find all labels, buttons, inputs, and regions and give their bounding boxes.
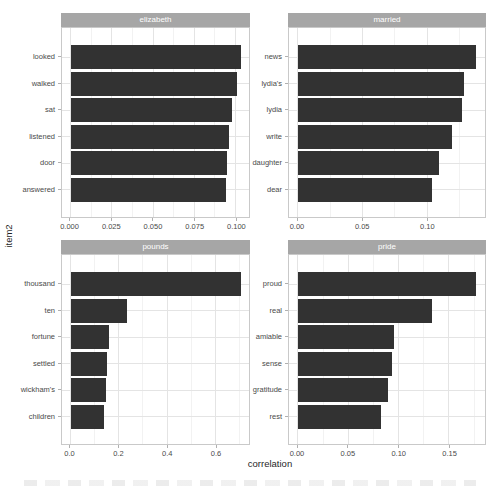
facet-strip: married	[288, 13, 486, 27]
facet-strip-label: married	[373, 15, 400, 24]
x-axis-tick-mark	[297, 445, 298, 448]
truncated-caption-sliver	[24, 480, 476, 486]
facet-pounds: thousandtenfortunesettledwickham'schildr…	[15, 240, 250, 458]
facet-elizabeth: lookedwalkedsatlisteneddooranswered eliz…	[15, 13, 250, 231]
x-axis-tick-mark	[69, 445, 70, 448]
facet-strip: elizabeth	[61, 13, 250, 27]
y-tick-label: rest	[269, 411, 282, 420]
x-tick-label: 0.10	[391, 449, 406, 458]
x-tick-label: 0.025	[102, 222, 121, 231]
x-axis-ticks: 0.0000.0250.0500.0750.100	[61, 218, 250, 231]
y-tick-label: door	[40, 158, 55, 167]
x-tick-label: 0.00	[290, 449, 305, 458]
bar	[298, 178, 432, 202]
facet-strip-label: pride	[378, 242, 396, 251]
y-axis-labels: lookedwalkedsatlisteneddooranswered	[15, 13, 61, 231]
facet-strip-label: pounds	[142, 242, 168, 251]
y-tick-label: news	[264, 52, 282, 61]
y-tick-label: looked	[33, 52, 55, 61]
x-tick-label: 0.00	[290, 222, 305, 231]
plot-panel	[61, 27, 250, 218]
x-axis-tick-mark	[152, 218, 153, 221]
x-tick-label: 0.4	[162, 449, 172, 458]
x-tick-label: 0.05	[355, 222, 370, 231]
y-axis-labels: newslydia'slydiawritedaughterdear	[250, 13, 288, 231]
x-axis-tick-mark	[69, 218, 70, 221]
x-axis-tick-mark	[347, 445, 348, 448]
bar	[298, 405, 382, 429]
faceted-bar-chart: item2 lookedwalkedsatlisteneddooranswere…	[0, 0, 491, 487]
bar	[71, 325, 110, 349]
bar	[71, 98, 233, 122]
y-axis-labels: thousandtenfortunesettledwickham'schildr…	[15, 240, 61, 458]
facet-pride: proudrealamiablesensegratituderest pride…	[250, 240, 486, 458]
bar	[298, 272, 476, 296]
y-tick-label: sense	[262, 358, 282, 367]
bar	[298, 98, 462, 122]
facet-married: newslydia'slydiawritedaughterdear marrie…	[250, 13, 486, 231]
x-axis-tick-mark	[118, 445, 119, 448]
bar	[71, 72, 238, 96]
bar	[71, 352, 108, 376]
x-axis-tick-mark	[194, 218, 195, 221]
y-tick-label: lydia's	[261, 78, 282, 87]
facet-strip: pounds	[61, 240, 250, 254]
y-tick-label: gratitude	[253, 385, 282, 394]
x-axis-ticks: 0.000.050.10	[288, 218, 486, 231]
y-tick-label: listened	[29, 131, 55, 140]
facet-strip-label: elizabeth	[139, 15, 171, 24]
bar	[71, 299, 127, 323]
x-axis-tick-mark	[216, 445, 217, 448]
x-tick-label: 0.05	[341, 449, 356, 458]
y-axis-title: item2	[3, 224, 14, 247]
x-axis-title: correlation	[160, 458, 380, 469]
bar	[71, 178, 226, 202]
plot-panel	[61, 254, 250, 445]
y-tick-label: answered	[22, 184, 55, 193]
x-axis-ticks: 0.000.050.100.15	[288, 445, 486, 458]
y-tick-label: write	[266, 131, 282, 140]
y-tick-label: wickham's	[21, 385, 55, 394]
y-tick-label: sat	[45, 105, 55, 114]
bar	[298, 72, 465, 96]
x-axis-ticks: 0.00.20.40.6	[61, 445, 250, 458]
x-axis-tick-mark	[449, 445, 450, 448]
x-axis-tick-mark	[111, 218, 112, 221]
x-axis-tick-mark	[427, 218, 428, 221]
plot-panel	[288, 27, 486, 218]
bar	[298, 299, 432, 323]
y-tick-label: children	[29, 411, 55, 420]
y-tick-label: thousand	[24, 279, 55, 288]
x-axis-tick-mark	[398, 445, 399, 448]
bar	[71, 378, 106, 402]
bar	[298, 125, 452, 149]
y-tick-label: lydia	[267, 105, 282, 114]
bar	[298, 378, 388, 402]
y-tick-label: amiable	[256, 332, 282, 341]
bar	[71, 405, 104, 429]
plot-panel	[288, 254, 486, 445]
bar	[298, 325, 394, 349]
bar	[298, 151, 439, 175]
x-axis-tick-mark	[236, 218, 237, 221]
bar	[298, 45, 476, 69]
bar	[71, 125, 229, 149]
x-tick-label: 0.6	[211, 449, 221, 458]
y-axis-labels: proudrealamiablesensegratituderest	[250, 240, 288, 458]
y-tick-label: real	[269, 305, 282, 314]
bar	[298, 352, 392, 376]
x-tick-label: 0.2	[113, 449, 123, 458]
x-axis-tick-mark	[362, 218, 363, 221]
y-tick-label: daughter	[252, 158, 282, 167]
y-tick-label: settled	[33, 358, 55, 367]
bar	[71, 151, 228, 175]
x-tick-label: 0.000	[60, 222, 79, 231]
bar	[71, 45, 241, 69]
x-tick-label: 0.0	[64, 449, 74, 458]
x-axis-tick-mark	[297, 218, 298, 221]
y-tick-label: proud	[263, 279, 282, 288]
bar	[71, 272, 241, 296]
facet-strip: pride	[288, 240, 486, 254]
x-tick-label: 0.100	[227, 222, 246, 231]
y-tick-label: fortune	[32, 332, 55, 341]
